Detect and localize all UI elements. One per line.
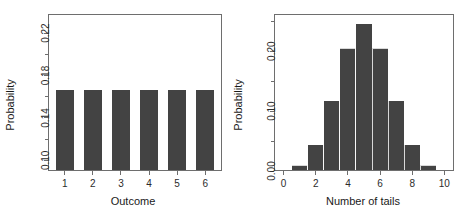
right-x-ticklabel-2: 4 <box>345 178 351 189</box>
left-x-ticklabel-1: 2 <box>90 178 96 189</box>
right-y-ticklabel-1: 0.10 <box>266 101 277 121</box>
left-x-axis-title: Outcome <box>111 195 156 207</box>
right-bar-2 <box>308 145 324 171</box>
right-x-ticklabel-1: 2 <box>313 178 319 189</box>
left-bar-4 <box>140 90 157 171</box>
chart-panel-right: 0.000.100.200246810 Probability Number o… <box>228 0 461 215</box>
left-y-ticklabel-1: 0.14 <box>40 108 51 128</box>
right-x-axis-ticks: 0246810 <box>281 171 451 189</box>
right-x-axis-title: Number of tails <box>326 195 400 207</box>
left-x-ticklabel-2: 3 <box>118 178 124 189</box>
left-bar-3 <box>112 90 129 171</box>
left-y-axis-ticks: 0.100.140.180.22 <box>40 23 51 170</box>
right-y-ticklabel-0: 0.00 <box>266 161 277 181</box>
right-x-ticklabel-4: 8 <box>409 178 415 189</box>
right-bar-3 <box>324 101 340 171</box>
left-bar-1 <box>56 90 73 171</box>
left-bar-5 <box>168 90 185 171</box>
right-y-axis-ticks: 0.000.100.20 <box>266 21 277 181</box>
left-x-axis-ticks: 123456 <box>62 171 208 189</box>
right-y-ticklabel-2: 0.20 <box>266 41 277 61</box>
left-x-ticklabel-3: 4 <box>146 178 152 189</box>
left-y-ticklabel-2: 0.18 <box>40 65 51 85</box>
left-y-axis-title: Probability <box>4 79 16 131</box>
left-plot-frame <box>49 15 222 171</box>
right-x-ticklabel-5: 10 <box>439 178 451 189</box>
left-x-ticklabel-0: 1 <box>62 178 68 189</box>
chart-panel-left: 0.100.140.180.22123456 Probability Outco… <box>0 0 228 215</box>
right-bar-6 <box>372 48 388 171</box>
right-bar-7 <box>388 101 404 171</box>
left-bar-6 <box>196 90 213 171</box>
right-bar-4 <box>340 48 356 171</box>
right-y-axis-title: Probability <box>232 79 244 131</box>
left-x-ticklabel-5: 6 <box>202 178 208 189</box>
left-bars-group <box>56 90 214 171</box>
left-bar-2 <box>84 90 101 171</box>
figure-container: 0.100.140.180.22123456 Probability Outco… <box>0 0 461 215</box>
right-x-ticklabel-3: 6 <box>377 178 383 189</box>
left-y-ticklabel-0: 0.10 <box>40 150 51 170</box>
left-x-ticklabel-4: 5 <box>174 178 180 189</box>
right-bar-5 <box>356 24 372 171</box>
left-plot-svg: 0.100.140.180.22123456 Probability Outco… <box>0 0 228 215</box>
right-x-ticklabel-0: 0 <box>281 178 287 189</box>
right-bar-8 <box>404 145 420 171</box>
right-plot-svg: 0.000.100.200246810 Probability Number o… <box>228 0 461 215</box>
right-bars-group <box>276 24 453 172</box>
left-y-ticklabel-3: 0.22 <box>40 23 51 43</box>
